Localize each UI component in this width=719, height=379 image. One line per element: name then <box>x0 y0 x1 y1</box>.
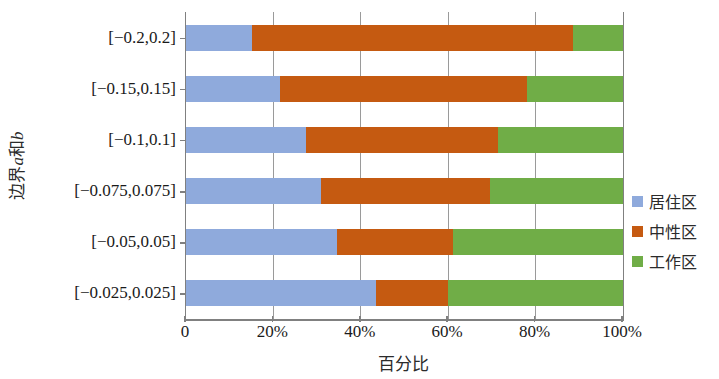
y-axis-tick-mark <box>180 89 186 91</box>
y-axis-tick-label: [−0.1,0.1] <box>30 114 182 165</box>
bar-row <box>186 114 623 165</box>
y-axis-title: 边界a和b <box>0 0 30 330</box>
stacked-bar[interactable] <box>186 127 623 153</box>
bar-segment[interactable] <box>490 178 623 204</box>
x-axis-tick-label: 20% <box>257 322 288 342</box>
legend-swatch-icon <box>632 196 643 207</box>
plot-area <box>185 12 623 319</box>
x-axis-tick-label: 80% <box>519 322 550 342</box>
bar-segment[interactable] <box>321 178 489 204</box>
y-axis-title-italic-a: a <box>8 157 27 166</box>
y-axis-title-mid: 和 <box>8 140 27 157</box>
bar-row <box>186 217 623 268</box>
stacked-bar[interactable] <box>186 25 623 51</box>
y-axis-tick-label: [−0.075,0.075] <box>30 166 182 217</box>
stacked-bar[interactable] <box>186 280 623 306</box>
x-axis-tick-labels: 020%40%60%80%100% <box>185 322 622 346</box>
y-axis-tick-mark <box>180 38 186 40</box>
bar-row <box>186 268 623 319</box>
bar-segment[interactable] <box>186 25 252 51</box>
legend-item[interactable]: 居住区 <box>632 186 719 216</box>
y-axis-tick-label: [−0.2,0.2] <box>30 12 182 63</box>
bar-segment[interactable] <box>186 280 376 306</box>
y-axis-tick-label: [−0.025,0.025] <box>30 268 182 319</box>
y-axis-category-labels: [−0.2,0.2] [−0.15,0.15] [−0.1,0.1] [−0.0… <box>30 12 182 319</box>
bar-segment[interactable] <box>337 229 453 255</box>
bar-segment[interactable] <box>306 127 498 153</box>
legend-item-label: 中性区 <box>649 219 697 243</box>
bar-segment[interactable] <box>573 25 623 51</box>
x-axis-tick-label: 100% <box>602 322 642 342</box>
y-axis-title-text: 边界a和b <box>3 131 28 199</box>
y-axis-tick-label: [−0.05,0.05] <box>30 217 182 268</box>
y-axis-tick-mark <box>180 140 186 142</box>
x-axis-title: 百分比 <box>185 350 622 375</box>
legend-item-label: 工作区 <box>649 249 697 273</box>
y-axis-tick-mark <box>180 242 186 244</box>
legend: 居住区中性区工作区 <box>632 186 719 276</box>
legend-swatch-icon <box>632 256 643 267</box>
bar-segment[interactable] <box>186 127 306 153</box>
bar-segment[interactable] <box>186 178 321 204</box>
stacked-bar[interactable] <box>186 178 623 204</box>
chart-canvas: 边界a和b [−0.2,0.2] [−0.15,0.15] [−0.1,0.1]… <box>0 0 719 379</box>
bar-segment[interactable] <box>252 25 573 51</box>
bar-segment[interactable] <box>376 280 448 306</box>
bar-series-container <box>186 12 623 319</box>
bar-segment[interactable] <box>186 229 337 255</box>
bar-segment[interactable] <box>527 76 623 102</box>
bar-segment[interactable] <box>280 76 527 102</box>
x-axis-line <box>185 319 624 321</box>
y-axis-title-prefix: 边界 <box>8 165 27 199</box>
legend-item[interactable]: 工作区 <box>632 246 719 276</box>
y-axis-tick-mark <box>180 191 186 193</box>
bar-segment[interactable] <box>186 76 280 102</box>
legend-item[interactable]: 中性区 <box>632 216 719 246</box>
y-axis-tick-mark <box>180 293 186 295</box>
y-axis-tick-label: [−0.15,0.15] <box>30 63 182 114</box>
bar-segment[interactable] <box>453 229 623 255</box>
bar-segment[interactable] <box>448 280 623 306</box>
stacked-bar[interactable] <box>186 229 623 255</box>
legend-swatch-icon <box>632 226 643 237</box>
legend-item-label: 居住区 <box>649 189 697 213</box>
x-axis-tick-label: 40% <box>344 322 375 342</box>
bar-segment[interactable] <box>498 127 623 153</box>
bar-row <box>186 63 623 114</box>
y-axis-title-italic-b: b <box>8 131 27 140</box>
bar-row <box>186 166 623 217</box>
x-axis-tick-label: 60% <box>432 322 463 342</box>
stacked-bar[interactable] <box>186 76 623 102</box>
bar-row <box>186 12 623 63</box>
x-axis-tick-label: 0 <box>181 322 190 342</box>
